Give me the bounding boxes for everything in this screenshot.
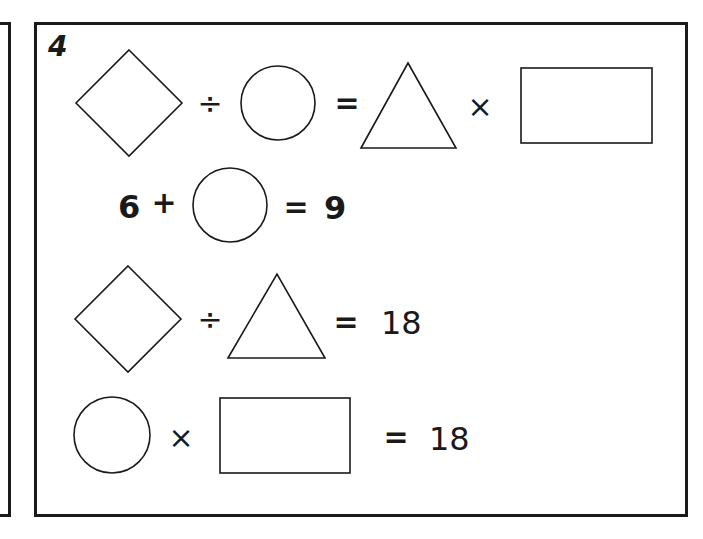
rectangle-shape (220, 398, 350, 473)
shape-layer (0, 0, 703, 539)
equals-sign: = (334, 88, 359, 118)
multiply-sign: × (467, 92, 492, 122)
circle-shape (241, 66, 315, 140)
multiply-sign: × (168, 423, 193, 453)
diamond-shape (76, 50, 182, 156)
divide-sign: ÷ (197, 89, 222, 119)
equals-sign: = (383, 422, 408, 452)
rectangle-shape (521, 68, 652, 143)
circle-shape (74, 397, 150, 473)
equals-sign: = (333, 307, 358, 337)
diamond-shape (75, 266, 181, 372)
number-value: 6 (118, 191, 140, 223)
result-value: 18 (429, 423, 470, 455)
result-value: 9 (324, 192, 346, 224)
divide-sign: ÷ (197, 305, 222, 335)
circle-shape (193, 168, 267, 242)
triangle-shape (228, 274, 325, 358)
result-value: 18 (381, 307, 422, 339)
plus-sign: + (151, 188, 176, 218)
equals-sign: = (283, 192, 308, 222)
triangle-shape (361, 63, 456, 148)
